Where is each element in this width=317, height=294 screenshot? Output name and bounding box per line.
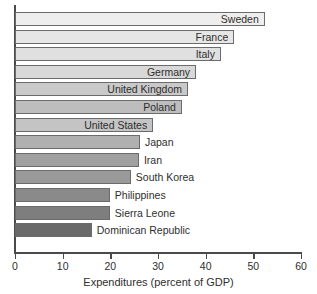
bar-label: France: [15, 30, 234, 44]
bar: [15, 170, 131, 184]
bar-label: United States: [15, 118, 153, 132]
bar: [15, 206, 110, 220]
plot-area: SwedenFranceItalyGermanyUnited KingdomPo…: [0, 0, 317, 258]
x-axis-tick-label: 20: [104, 260, 116, 272]
bar-row: Philippines: [15, 188, 301, 202]
bar-row: Japan: [15, 135, 301, 149]
bar-label: Sweden: [15, 12, 265, 26]
x-axis-tick-label: 10: [57, 260, 69, 272]
bar-row: France: [15, 30, 301, 44]
bar-label: Italy: [15, 47, 221, 61]
x-axis-tick-label: 40: [200, 260, 212, 272]
bar-row: United States: [15, 118, 301, 132]
x-axis-tick: [63, 253, 64, 259]
bar-row: Poland: [15, 100, 301, 114]
x-axis-title: Expenditures (percent of GDP): [0, 276, 317, 288]
bar-row: Sweden: [15, 12, 301, 26]
bar: [15, 223, 92, 237]
bar-row: Iran: [15, 153, 301, 167]
bar: [15, 188, 110, 202]
bar-label: United Kingdom: [15, 82, 188, 96]
bar-row: Dominican Republic: [15, 223, 301, 237]
bar-row: Germany: [15, 65, 301, 79]
bar-row: Sierra Leone: [15, 206, 301, 220]
x-axis-tick: [301, 253, 302, 259]
bar: [15, 153, 139, 167]
bar-label: Germany: [15, 65, 196, 79]
x-axis-tick-label: 0: [12, 260, 18, 272]
x-axis-tick-label: 30: [152, 260, 164, 272]
x-axis-tick-label: 50: [247, 260, 259, 272]
bar-label: Poland: [15, 100, 182, 114]
bar: [15, 135, 140, 149]
x-axis-tick: [15, 253, 16, 259]
bar-label: South Korea: [131, 170, 194, 184]
x-axis-tick-label: 60: [295, 260, 307, 272]
x-axis-tick: [253, 253, 254, 259]
bar-label: Dominican Republic: [92, 223, 190, 237]
x-axis-tick: [110, 253, 111, 259]
bar-row: South Korea: [15, 170, 301, 184]
bar-chart: SwedenFranceItalyGermanyUnited KingdomPo…: [0, 0, 317, 294]
bar-row: United Kingdom: [15, 82, 301, 96]
bar-label: Sierra Leone: [110, 206, 175, 220]
bar-label: Iran: [139, 153, 162, 167]
bar-row: Italy: [15, 47, 301, 61]
bar-label: Philippines: [110, 188, 166, 202]
x-axis-tick: [206, 253, 207, 259]
bar-label: Japan: [140, 135, 174, 149]
x-axis-tick: [158, 253, 159, 259]
